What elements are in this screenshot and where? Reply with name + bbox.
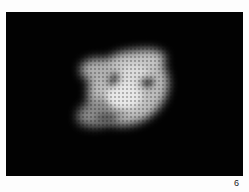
panel-label: 6 [234, 178, 239, 188]
image-panel [6, 12, 243, 176]
speckle-texture [66, 42, 186, 157]
blob-image [6, 12, 243, 176]
